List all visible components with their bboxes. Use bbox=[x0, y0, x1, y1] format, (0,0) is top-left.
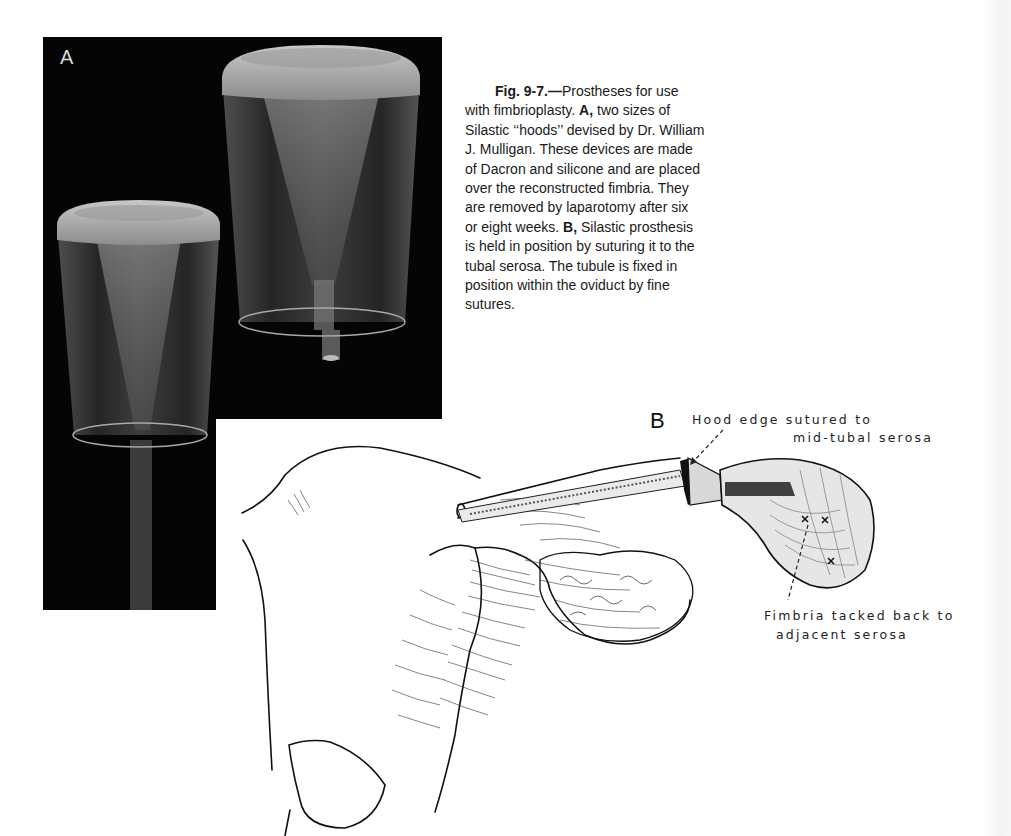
annotation-hood-edge-line1: Hood edge sutured to bbox=[692, 412, 872, 427]
annotation-hood-edge-line2: mid-tubal serosa bbox=[793, 430, 933, 445]
panel-b-label: B bbox=[650, 408, 665, 434]
silastic-hood bbox=[680, 458, 722, 505]
annotation-fimbria-line1: Fimbria tacked back to bbox=[764, 608, 955, 623]
leader-line-hood-edge bbox=[690, 430, 723, 465]
annotation-fimbria-line2: adjacent serosa bbox=[776, 627, 908, 642]
